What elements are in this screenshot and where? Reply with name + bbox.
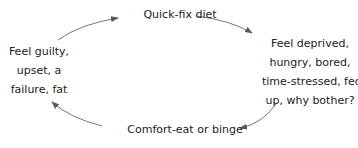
node-line: Feel guilty, [0, 42, 78, 61]
node-line: hungry, bored, [262, 53, 358, 72]
node-line: Feel deprived, [262, 34, 358, 53]
arrow-left-to-top [58, 18, 118, 40]
node-comfort-eat: Comfort-eat or binge [110, 120, 260, 139]
node-feel-deprived: Feel deprived, hungry, bored, time-stres… [262, 34, 358, 110]
node-line: upset, a [0, 61, 78, 80]
node-line: Quick-fix diet [120, 5, 240, 24]
node-feel-guilty: Feel guilty, upset, a failure, fat [0, 42, 78, 99]
node-line: failure, fat [0, 80, 78, 99]
node-line: time-stressed, fed [262, 72, 358, 91]
node-quick-fix-diet: Quick-fix diet [120, 5, 240, 24]
node-line: up, why bother? [262, 91, 358, 110]
node-line: Comfort-eat or binge [110, 120, 260, 139]
arrow-bottom-to-left [52, 102, 102, 126]
